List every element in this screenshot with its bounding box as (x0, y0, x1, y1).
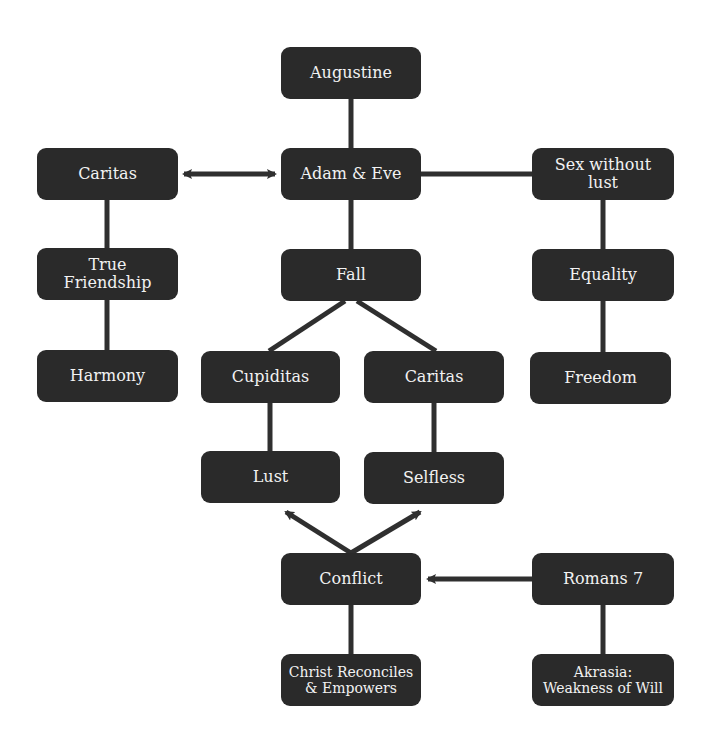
node-cupiditas[interactable]: Cupiditas (201, 351, 340, 403)
node-true-friendship[interactable]: True Friendship (37, 248, 178, 300)
node-romans-7[interactable]: Romans 7 (532, 553, 674, 605)
node-fall[interactable]: Fall (281, 249, 421, 301)
node-conflict[interactable]: Conflict (281, 553, 421, 605)
node-harmony[interactable]: Harmony (37, 350, 178, 402)
node-augustine[interactable]: Augustine (281, 47, 421, 99)
node-akrasia[interactable]: Akrasia: Weakness of Will (532, 654, 674, 706)
node-caritas-mid[interactable]: Caritas (364, 351, 504, 403)
concept-diagram: Augustine Adam & Eve Caritas Sex without… (0, 0, 709, 752)
edge-conflict-selfless-arrow (351, 512, 420, 553)
node-christ-reconciles[interactable]: Christ Reconciles & Empowers (281, 654, 421, 706)
node-equality[interactable]: Equality (532, 249, 674, 301)
node-caritas-left[interactable]: Caritas (37, 148, 178, 200)
node-lust[interactable]: Lust (201, 451, 340, 503)
edge-conflict-lust-arrow (286, 512, 351, 553)
edge-fall-cupiditas (269, 301, 345, 351)
node-selfless[interactable]: Selfless (364, 452, 504, 504)
node-freedom[interactable]: Freedom (530, 352, 671, 404)
node-sex-without-lust[interactable]: Sex without lust (532, 148, 674, 200)
node-adam-eve[interactable]: Adam & Eve (281, 148, 421, 200)
edge-fall-caritas (357, 301, 436, 351)
